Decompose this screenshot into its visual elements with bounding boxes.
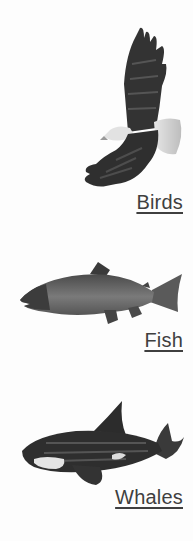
salmon-icon[interactable] <box>16 260 186 330</box>
orca-icon[interactable] <box>16 397 184 487</box>
birds-link[interactable]: Birds <box>136 192 183 212</box>
category-birds[interactable]: Birds <box>0 0 193 220</box>
fish-link[interactable]: Fish <box>144 330 183 350</box>
category-whales[interactable]: Whales <box>0 395 193 520</box>
category-fish[interactable]: Fish <box>0 250 193 360</box>
whales-link[interactable]: Whales <box>115 487 183 507</box>
eagle-icon[interactable] <box>76 24 186 189</box>
